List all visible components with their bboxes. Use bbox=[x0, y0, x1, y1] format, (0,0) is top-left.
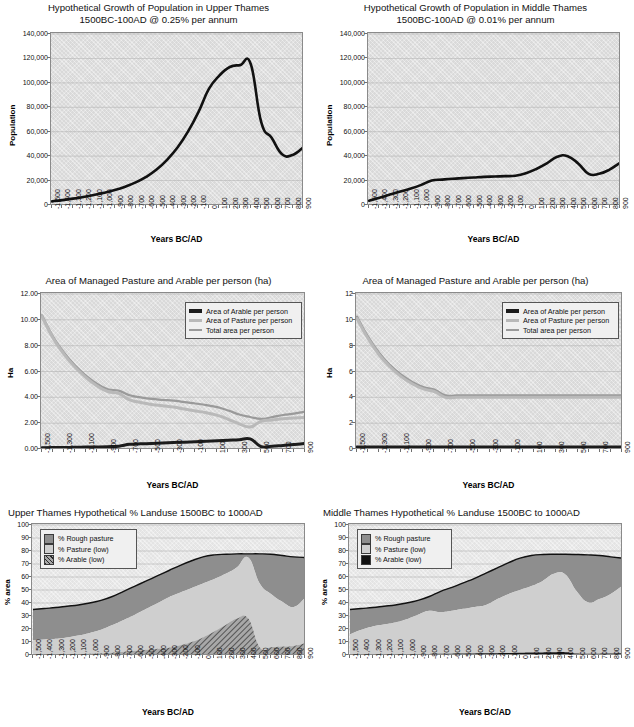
x-axis-tick-mark bbox=[260, 449, 261, 452]
x-axis-tick-mark bbox=[134, 655, 135, 658]
x-axis-tick-mark bbox=[587, 655, 588, 658]
y-axis-tick-mark bbox=[352, 345, 355, 346]
y-axis-tick-mark bbox=[37, 422, 40, 423]
y-axis-tick-label: 50 bbox=[321, 586, 346, 593]
x-axis-tick-mark bbox=[61, 205, 62, 208]
x-axis-tick-label: -800 bbox=[114, 645, 121, 659]
y-axis-tick-label: 20,000 bbox=[4, 176, 48, 183]
x-axis-tick-mark bbox=[556, 205, 557, 208]
x-axis-tick-mark bbox=[511, 449, 512, 452]
x-axis-tick-label: -500 bbox=[465, 645, 472, 659]
y-axis-tick-label: 10 bbox=[321, 638, 346, 645]
y-axis-tick-label: 2 bbox=[321, 419, 353, 426]
x-axis-tick-label: -400 bbox=[477, 645, 484, 659]
y-axis-tick-label: 0 bbox=[321, 651, 346, 658]
x-axis-tick-mark bbox=[281, 205, 282, 208]
x-axis-tick-mark bbox=[168, 655, 169, 658]
x-axis-tick-mark bbox=[473, 205, 474, 208]
legend-label: % Pasture (low) bbox=[58, 545, 109, 554]
x-axis-tick-mark bbox=[260, 205, 261, 208]
x-axis-tick-mark bbox=[293, 449, 294, 452]
y-axis-tick-mark bbox=[352, 371, 355, 372]
x-axis-tick-label: -400 bbox=[169, 195, 176, 209]
x-axis-tick-label: -600 bbox=[148, 195, 155, 209]
y-axis-tick-mark bbox=[345, 576, 348, 577]
x-axis-tick-label: 200 bbox=[545, 647, 552, 659]
legend-item: % Rough pasture bbox=[44, 534, 132, 544]
y-axis-tick-mark bbox=[28, 589, 31, 590]
y-axis-tick-label: 12 bbox=[321, 290, 353, 297]
x-axis-tick-label: -700 bbox=[443, 645, 450, 659]
x-axis-tick-label: 500 bbox=[262, 647, 269, 659]
x-axis-tick-mark bbox=[466, 449, 467, 452]
x-axis-tick-label: -1,500 bbox=[352, 639, 359, 659]
y-axis-tick-mark bbox=[364, 180, 367, 181]
y-axis-tick-label: 40 bbox=[321, 599, 346, 606]
x-axis-tick-mark bbox=[236, 655, 237, 658]
legend-label: Area of Arable per person bbox=[523, 307, 605, 316]
x-axis-tick-label: 600 bbox=[591, 197, 598, 209]
x-axis-tick-mark bbox=[197, 205, 198, 208]
x-axis-tick-mark bbox=[173, 449, 174, 452]
x-axis-tick-mark bbox=[89, 655, 90, 658]
y-axis-tick-mark bbox=[28, 602, 31, 603]
x-axis-tick-label: 700 bbox=[601, 197, 608, 209]
x-axis-tick-mark bbox=[55, 655, 56, 658]
x-axis-tick-mark bbox=[96, 449, 97, 452]
plot-area bbox=[50, 32, 303, 205]
y-axis-tick-label: 80,000 bbox=[321, 103, 365, 110]
x-axis-title: Years BC/AD bbox=[50, 234, 303, 244]
y-axis-tick-label: 20 bbox=[321, 625, 346, 632]
legend-item: Area of Arable per person bbox=[506, 307, 614, 316]
x-axis-tick-mark bbox=[621, 449, 622, 452]
x-axis-tick-mark bbox=[107, 449, 108, 452]
legend-label: % Pasture (low) bbox=[375, 545, 426, 554]
y-axis-tick-label: 60,000 bbox=[321, 127, 365, 134]
x-axis-tick-mark bbox=[599, 449, 600, 452]
x-axis-tick-label: -900 bbox=[425, 439, 432, 453]
x-axis-tick-mark bbox=[140, 449, 141, 452]
x-axis-tick-label: 400 bbox=[253, 197, 260, 209]
x-axis-tick-label: 500 bbox=[263, 441, 270, 453]
x-axis-tick-label: 0 bbox=[528, 205, 535, 209]
x-axis-tick-mark bbox=[411, 449, 412, 452]
x-axis-tick-mark bbox=[183, 449, 184, 452]
x-axis-tick-mark bbox=[103, 205, 104, 208]
x-axis-tick-mark bbox=[82, 205, 83, 208]
y-axis-tick-label: 100 bbox=[4, 521, 29, 528]
x-axis-tick-label: 400 bbox=[250, 647, 257, 659]
x-axis-tick-mark bbox=[389, 449, 390, 452]
x-axis-tick-mark bbox=[247, 655, 248, 658]
x-axis-tick-mark bbox=[124, 205, 125, 208]
x-axis-tick-label: 600 bbox=[273, 647, 280, 659]
x-axis-tick-label: 300 bbox=[556, 647, 563, 659]
y-axis-tick-mark bbox=[28, 641, 31, 642]
x-axis-tick-mark bbox=[577, 449, 578, 452]
chart-title: Area of Managed Pasture and Arable per p… bbox=[317, 275, 634, 287]
x-axis-tick-label: -1,100 bbox=[413, 189, 420, 209]
x-axis-tick-label: 600 bbox=[274, 197, 281, 209]
legend-landuse: % Rough pasture % Pasture (low) % Arable… bbox=[40, 529, 137, 569]
x-axis-tick-label: -1,100 bbox=[80, 639, 87, 659]
chart-upper-thames-population: Hypothetical Growth of Population in Upp… bbox=[0, 0, 317, 248]
x-axis-tick-label: -300 bbox=[180, 195, 187, 209]
x-axis-tick-mark bbox=[462, 655, 463, 658]
total-line-swatch-icon bbox=[506, 329, 519, 331]
y-axis-tick-label: 30 bbox=[4, 612, 29, 619]
x-axis-tick-mark bbox=[162, 449, 163, 452]
x-axis-tick-label: -100 bbox=[200, 195, 207, 209]
y-axis-tick-label: 60 bbox=[4, 573, 29, 580]
x-axis-tick-mark bbox=[609, 205, 610, 208]
y-axis-tick-label: 10.00 bbox=[4, 315, 38, 322]
x-axis-tick-mark bbox=[566, 449, 567, 452]
x-axis-tick-mark bbox=[151, 449, 152, 452]
pasture-swatch-icon bbox=[361, 544, 371, 554]
x-axis-tick-label: 100 bbox=[221, 197, 228, 209]
x-axis-tick-mark bbox=[542, 655, 543, 658]
legend-item: % Pasture (low) bbox=[361, 544, 447, 554]
y-axis-tick-mark bbox=[345, 550, 348, 551]
x-axis-tick-mark bbox=[474, 655, 475, 658]
legend-item: % Arable (low) bbox=[361, 555, 447, 565]
x-axis-tick-label: -1,300 bbox=[58, 639, 65, 659]
y-axis-tick-label: 100,000 bbox=[321, 78, 365, 85]
